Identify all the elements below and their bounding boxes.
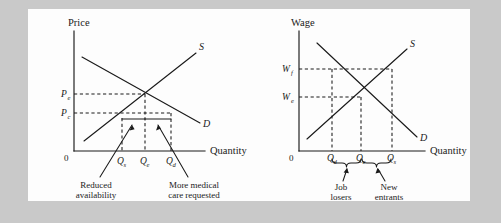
price-label-equilibrium-sub: e <box>68 94 71 101</box>
annotation-new-entrants-line1: New <box>381 182 398 192</box>
supply-curve-label: S <box>199 41 204 52</box>
annotation-new-entrants-line2: entrants <box>375 192 404 202</box>
panel-wage-floor: Wage Quantity 0 S D W f W e Q d Q e Q s <box>249 9 470 201</box>
demand-curve-label: D <box>202 118 211 129</box>
annotation-more-care-line2: care requested <box>168 190 220 200</box>
wage-label-equilibrium-sub: e <box>291 97 294 104</box>
quantity-label-demanded-sub: d <box>173 161 177 168</box>
wage-label-equilibrium: W <box>282 92 291 102</box>
wage-label-floor: W <box>282 64 291 74</box>
quantity-label-equilibrium-sub: e <box>147 161 150 168</box>
annotation-job-losers-line1: Job <box>335 182 348 192</box>
origin-label: 0 <box>289 153 294 163</box>
demand-curve-label: D <box>419 132 428 143</box>
origin-label: 0 <box>64 153 69 163</box>
price-label-equilibrium: P <box>60 89 67 99</box>
annotation-job-losers-line2: losers <box>331 192 352 202</box>
quantity-label-supplied-sub: s <box>394 158 397 165</box>
quantity-label-equilibrium-sub: e <box>363 158 366 165</box>
supply-curve-label: S <box>410 38 415 49</box>
y-axis-title: Wage <box>291 17 315 28</box>
price-label-ceiling: P <box>60 108 67 118</box>
annotation-more-care-line1: More medical <box>169 180 220 190</box>
annotation-reduced-availability-line1: Reduced <box>80 180 112 190</box>
price-label-ceiling-sub: c <box>68 113 71 120</box>
x-axis-title: Quantity <box>210 145 247 156</box>
quantity-label-supplied-sub: s <box>124 161 127 168</box>
wage-label-floor-sub: f <box>291 69 294 76</box>
arrowhead-job-losers <box>344 168 349 173</box>
x-axis-title: Quantity <box>430 145 467 156</box>
y-axis-title: Price <box>68 17 90 28</box>
supply-curve <box>84 53 196 141</box>
panel-price-ceiling: Price Quantity 0 S D P e P c Q s Q e Q d <box>28 9 249 201</box>
figure-root: Price Quantity 0 S D P e P c Q s Q e Q d <box>0 0 501 223</box>
annotation-reduced-availability-line2: availability <box>76 190 117 200</box>
figure-card: Price Quantity 0 S D P e P c Q s Q e Q d <box>28 9 470 201</box>
